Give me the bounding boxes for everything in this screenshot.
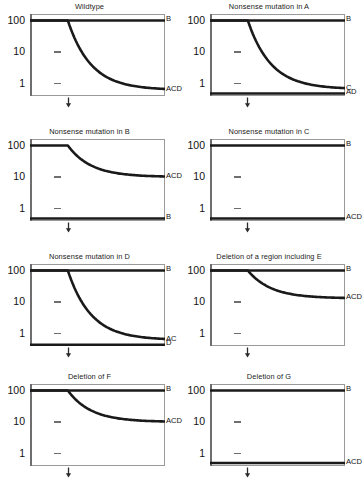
chart-panel: Deletion of a region including E100101BA… (179, 250, 359, 370)
plot-area: 100101BACD (210, 139, 345, 221)
panel-title: Deletion of F (0, 372, 179, 382)
plot-area: 100101BACD (30, 384, 165, 466)
y-tick-label: 10 (13, 415, 25, 427)
curve-label: B (166, 213, 171, 221)
y-axis-labels: 100101 (180, 14, 207, 96)
chart-panel: Nonsense mutation in B100101ACDB (0, 125, 179, 250)
y-tick-label: 10 (193, 415, 205, 427)
x-axis-arrow-marker (64, 467, 73, 478)
curve-canvas (210, 14, 345, 96)
y-axis-labels: 100101 (180, 264, 207, 346)
x-axis-arrow-marker (64, 97, 73, 108)
x-axis-arrow-marker (64, 222, 73, 233)
curve-ac (30, 270, 165, 339)
y-axis-labels: 100101 (0, 139, 27, 221)
y-tick-label: 1 (19, 447, 25, 459)
curve-acd (30, 390, 165, 421)
curve-label: ACD (346, 458, 362, 466)
panel-title: Deletion of G (179, 372, 359, 382)
plot-area: 100101BACD (210, 264, 345, 346)
curve-canvas (30, 14, 165, 96)
panel-title: Nonsense mutation in B (0, 127, 179, 137)
curve-canvas (30, 264, 165, 346)
y-tick-label: 10 (13, 170, 25, 182)
chart-panel: Nonsense mutation in C100101BACD (179, 125, 359, 250)
chart-panel: Deletion of G100101BACD (179, 370, 359, 503)
plot-area: 100101ACDB (30, 139, 165, 221)
chart-panel: Deletion of F100101BACD (0, 370, 179, 503)
curve-canvas (210, 264, 345, 346)
plot-area: 100101BACD (30, 264, 165, 346)
y-tick-label: 100 (7, 264, 25, 276)
y-tick-label: 100 (7, 384, 25, 396)
y-tick-label: 1 (199, 327, 205, 339)
curve-label: AD (346, 88, 357, 96)
curve-canvas (210, 384, 345, 466)
y-tick-label: 1 (19, 327, 25, 339)
y-tick-label: 100 (187, 14, 205, 26)
curve-label: B (346, 15, 351, 23)
x-axis-arrow-marker (64, 347, 73, 358)
y-tick-label: 10 (13, 45, 25, 57)
curve-label: D (166, 339, 171, 347)
y-tick-label: 100 (187, 264, 205, 276)
curve-canvas (30, 384, 165, 466)
x-axis-arrow-marker (243, 97, 252, 108)
y-tick-label: 100 (187, 139, 205, 151)
chart-panel: Nonsense mutation in D100101BACD (0, 250, 179, 370)
panel-title: Deletion of a region including E (179, 252, 359, 262)
y-tick-label: 100 (7, 139, 25, 151)
panel-title: Nonsense mutation in C (179, 127, 359, 137)
curve-label: B (166, 385, 171, 393)
y-axis-labels: 100101 (0, 264, 27, 346)
panel-title: Nonsense mutation in D (0, 252, 179, 262)
y-tick-label: 10 (193, 45, 205, 57)
curve-label: ACD (346, 213, 362, 221)
curve-label: B (166, 15, 171, 23)
y-tick-label: 100 (187, 384, 205, 396)
curve-label: B (166, 265, 171, 273)
x-axis-arrow-marker (243, 347, 252, 358)
plot-area: 100101BACD (30, 14, 165, 96)
y-tick-label: 1 (19, 77, 25, 89)
curve-acd (30, 20, 165, 89)
curve-acd (30, 145, 165, 176)
panel-title: Nonsense mutation in A (179, 2, 359, 12)
curve-label: B (346, 385, 351, 393)
plot-area: 100101BACD (210, 384, 345, 466)
y-tick-label: 1 (199, 202, 205, 214)
y-tick-label: 10 (13, 295, 25, 307)
x-axis-arrow-marker (243, 222, 252, 233)
x-axis-arrow-marker (243, 467, 252, 478)
chart-panel: Wildtype100101BACD (0, 0, 179, 125)
y-tick-label: 1 (199, 447, 205, 459)
curve-canvas (210, 139, 345, 221)
y-tick-label: 100 (7, 14, 25, 26)
curve-c (210, 20, 345, 88)
curve-canvas (30, 139, 165, 221)
plot-area: 100101BCAD (210, 14, 345, 96)
y-tick-label: 10 (193, 170, 205, 182)
curve-label: B (346, 265, 351, 273)
y-axis-labels: 100101 (180, 384, 207, 466)
panel-title: Wildtype (0, 2, 179, 12)
chart-panel: Nonsense mutation in A100101BCAD (179, 0, 359, 125)
curve-label: ACD (346, 293, 362, 301)
y-tick-label: 1 (199, 77, 205, 89)
y-axis-labels: 100101 (180, 139, 207, 221)
y-tick-label: 10 (193, 295, 205, 307)
y-axis-labels: 100101 (0, 384, 27, 466)
curve-acd (210, 270, 345, 298)
curve-label: B (346, 140, 351, 148)
y-axis-labels: 100101 (0, 14, 27, 96)
y-tick-label: 1 (19, 202, 25, 214)
